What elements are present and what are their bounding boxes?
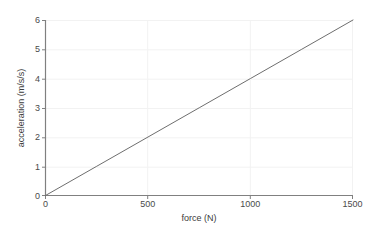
y-tick-label: 4 xyxy=(35,75,40,84)
x-tick-label: 1000 xyxy=(240,200,260,209)
x-tick-label: 500 xyxy=(140,200,155,209)
x-tick-label: 1500 xyxy=(342,200,362,209)
plot-svg xyxy=(45,20,353,196)
y-tick-label: 0 xyxy=(35,192,40,201)
y-tick-label: 2 xyxy=(35,133,40,142)
data-line-acceleration-vs-force xyxy=(46,20,354,196)
y-tick-label: 6 xyxy=(35,16,40,25)
chart-figure: 6 5 4 3 2 1 0 xyxy=(0,0,383,232)
x-axis-title: force (N) xyxy=(45,213,353,223)
horizontal-gridlines xyxy=(45,21,353,168)
y-axis-title: acceleration (m/s/s) xyxy=(16,20,30,196)
y-tick-label: 1 xyxy=(35,163,40,172)
y-tick-label: 5 xyxy=(35,45,40,54)
x-tick-label: 0 xyxy=(43,200,48,209)
y-tick-label: 3 xyxy=(35,104,40,113)
plot-area xyxy=(45,20,353,196)
x-axis-tick-labels: 0 500 1000 1500 xyxy=(45,200,353,214)
